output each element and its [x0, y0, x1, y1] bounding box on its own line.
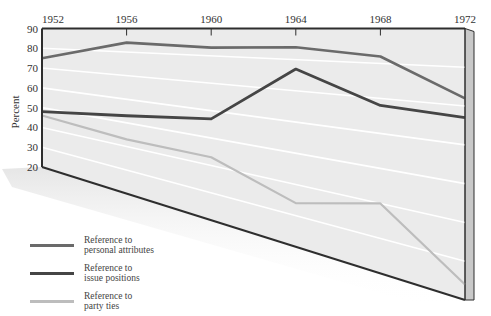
legend-swatch-party: [30, 300, 74, 303]
y-tick-label: 70: [27, 62, 39, 74]
y-tick-label: 60: [27, 82, 39, 94]
x-tick-label: 1964: [285, 13, 308, 25]
legend-label: Reference to party ties: [84, 291, 194, 311]
y-tick-label: 20: [27, 161, 39, 173]
x-tick-label: 1956: [116, 13, 139, 25]
x-tick-label: 1968: [369, 13, 392, 25]
x-tick-label: 1960: [200, 13, 223, 25]
y-tick-label: 40: [27, 121, 39, 133]
y-axis-title: Percent: [9, 96, 21, 129]
y-tick-label: 90: [27, 23, 39, 35]
legend: Reference to personal attributes Referen…: [30, 232, 194, 316]
legend-item-issue-positions: Reference to issue positions: [30, 260, 194, 286]
legend-item-party-ties: Reference to party ties: [30, 288, 194, 314]
legend-item-personal-attributes: Reference to personal attributes: [30, 232, 194, 258]
legend-swatch-issue: [30, 272, 74, 275]
y-tick-label: 50: [27, 102, 39, 114]
y-tick-label: 80: [27, 42, 39, 54]
legend-label: Reference to issue positions: [84, 263, 194, 283]
y-tick-label: 30: [27, 141, 39, 153]
legend-swatch-personal: [30, 244, 74, 247]
y-axis-ticks: 9080706050403020: [27, 23, 39, 174]
x-tick-label: 1952: [42, 13, 64, 25]
legend-label: Reference to personal attributes: [84, 235, 194, 255]
x-tick-label: 1972: [454, 13, 476, 25]
